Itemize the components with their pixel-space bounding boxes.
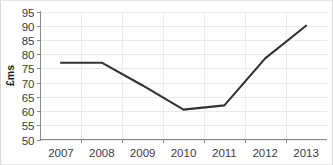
- y-axis-tick-label: 75: [22, 63, 35, 75]
- y-axis-label: £ms: [4, 65, 16, 86]
- y-axis-tick-label: 50: [22, 135, 35, 147]
- y-axis-tick-label: 95: [22, 7, 35, 19]
- y-axis-tick-labels: 50556065707580859095: [22, 7, 35, 147]
- axis-lines: [41, 11, 327, 140]
- y-axis-tick-label: 90: [22, 21, 35, 33]
- x-axis-tick-label: 2009: [130, 147, 156, 159]
- line-chart: 50556065707580859095 2007200820092010201…: [1, 1, 333, 165]
- y-axis-tick-label: 60: [22, 106, 35, 118]
- y-axis-tick-label: 70: [22, 78, 35, 90]
- y-axis-tick-label: 85: [22, 35, 35, 47]
- horizontal-gridlines: [41, 13, 327, 141]
- x-axis-tick-label: 2011: [212, 147, 237, 159]
- x-axis-tick-label: 2013: [293, 147, 319, 159]
- x-axis-tick-label: 2010: [171, 147, 197, 159]
- chart-container: 50556065707580859095 2007200820092010201…: [0, 0, 333, 165]
- x-axis-tick-label: 2008: [89, 147, 115, 159]
- x-axis-tick-labels: 2007200820092010201120122013: [48, 147, 319, 159]
- x-axis-tick-label: 2007: [48, 147, 74, 159]
- y-axis-tick-label: 55: [22, 120, 35, 132]
- x-axis-tick-label: 2012: [252, 147, 278, 159]
- y-axis-tick-label: 80: [22, 49, 35, 61]
- vertical-gridlines: [82, 12, 287, 140]
- y-axis-tick-label: 65: [22, 92, 35, 104]
